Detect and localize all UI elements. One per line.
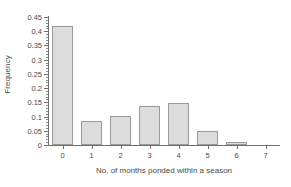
frequency-histogram: Frequency 00.050.10.150.20.250.30.350.40… [0, 0, 291, 187]
bar [168, 103, 189, 145]
plot-area: 00.050.10.150.20.250.30.350.40.45 012345… [48, 17, 280, 145]
x-tick-label: 5 [205, 151, 209, 160]
x-tick-label: 1 [89, 151, 93, 160]
y-tick-label: 0 [38, 141, 42, 150]
x-tick [179, 145, 180, 149]
y-axis-title: Frequency [0, 0, 14, 148]
x-axis-title: No. of months ponded within a season [48, 166, 280, 175]
bar [139, 106, 160, 145]
y-tick-label: 0.05 [27, 126, 42, 135]
x-tick [63, 145, 64, 149]
y-tick-major [44, 145, 48, 146]
x-tick [92, 145, 93, 149]
x-tick-label: 2 [118, 151, 122, 160]
y-axis-title-label: Frequency [3, 55, 12, 94]
x-tick [150, 145, 151, 149]
bar [52, 26, 73, 145]
x-tick-label: 0 [60, 151, 64, 160]
y-tick-label: 0.2 [32, 84, 42, 93]
y-tick-label: 0.45 [27, 13, 42, 22]
bar [110, 116, 131, 145]
x-tick [266, 145, 267, 149]
bar [81, 121, 102, 145]
x-tick-label: 4 [176, 151, 180, 160]
x-tick [121, 145, 122, 149]
y-tick-label: 0.35 [27, 41, 42, 50]
y-tick-label: 0.15 [27, 98, 42, 107]
x-tick-label: 6 [234, 151, 238, 160]
y-tick-label: 0.1 [32, 112, 42, 121]
x-tick [208, 145, 209, 149]
y-tick-label: 0.25 [27, 69, 42, 78]
x-tick-label: 7 [263, 151, 267, 160]
x-tick-label: 3 [147, 151, 151, 160]
bar [226, 142, 247, 145]
bar [197, 131, 218, 145]
y-tick-label: 0.3 [32, 55, 42, 64]
x-tick [237, 145, 238, 149]
y-tick-label: 0.4 [32, 27, 42, 36]
bars-group [48, 17, 280, 145]
x-axis-line [48, 145, 280, 146]
